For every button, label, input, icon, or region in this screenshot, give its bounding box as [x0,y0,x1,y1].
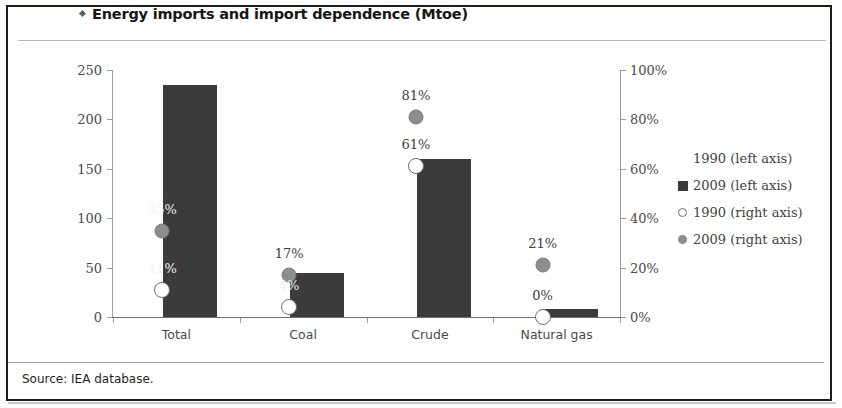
legend-square-icon-glyph [678,181,688,191]
right-axis-tick-label: 60% [630,161,659,176]
right-axis-tick [621,119,626,120]
legend-blank-icon-glyph [678,154,688,164]
data-label-1990-natural-gas: 0% [532,288,553,303]
right-axis-tick [621,218,626,219]
left-axis-tick-label: 0 [42,310,102,325]
chart-legend: 1990 (left axis)2009 (left axis)1990 (ri… [676,145,836,253]
data-label-2009-coal: 17% [275,246,304,261]
legend-item-0[interactable]: 1990 (left axis) [676,145,836,172]
marker-2009-natural-gas [535,258,550,273]
figure-page: Energy imports and import dependence (Mt… [0,0,842,408]
left-axis-tick-label: 200 [42,112,102,127]
marker-1990-crude [408,158,424,174]
marker-1990-natural-gas [535,309,551,325]
right-axis-tick-label: 20% [630,260,659,275]
legend-filled-circle-icon [676,233,689,246]
right-axis-tick [621,268,626,269]
left-axis-tick [107,119,112,120]
marker-2009-crude [408,109,423,124]
data-label-1990-total: 11% [148,260,177,275]
right-axis-tick [621,317,626,318]
right-axis-tick-label: 0% [630,310,651,325]
category-label-crude: Crude [411,327,448,342]
legend-item-3[interactable]: 2009 (right axis) [676,226,836,253]
legend-item-1[interactable]: 2009 (left axis) [676,172,836,199]
legend-item-2[interactable]: 1990 (right axis) [676,199,836,226]
bar-natural-gas [544,309,598,317]
left-axis-tick [107,317,112,318]
left-axis-tick-label: 150 [42,161,102,176]
data-label-1990-coal: 4% [279,278,300,293]
category-label-natural-gas: Natural gas [521,327,593,342]
source-note: Source: IEA database. [22,372,154,386]
marker-2009-total [155,223,170,238]
category-axis-tick [493,318,494,323]
data-label-2009-crude: 81% [401,87,430,102]
left-axis-line [112,70,113,318]
left-axis-tick-label: 50 [42,260,102,275]
data-label-1990-crude: 61% [401,137,430,152]
right-axis-tick [621,169,626,170]
category-label-total: Total [162,327,191,342]
data-label-2009-natural-gas: 21% [528,236,557,251]
category-axis-tick [113,318,114,323]
legend-open-circle-icon [676,206,689,219]
left-axis-tick-label: 250 [42,63,102,78]
left-axis-tick-label: 100 [42,211,102,226]
category-axis-tick [367,318,368,323]
left-axis-tick [107,70,112,71]
legend-square-icon [676,179,689,192]
legend-open-circle-icon-glyph [678,208,687,217]
category-axis-tick [240,318,241,323]
category-label-coal: Coal [289,327,317,342]
left-axis-tick [107,218,112,219]
marker-1990-total [154,282,170,298]
data-label-2009-total: 35% [148,201,177,216]
marker-1990-coal [281,299,297,315]
right-axis-line [620,70,621,318]
left-axis-tick [107,268,112,269]
legend-item-label: 1990 (left axis) [693,151,792,166]
right-axis-tick-label: 40% [630,211,659,226]
legend-blank-icon [676,152,689,165]
legend-filled-circle-icon-glyph [678,235,687,244]
legend-item-label: 1990 (right axis) [693,205,803,220]
category-axis-tick [620,318,621,323]
right-axis-tick [621,70,626,71]
footer-divider [8,362,824,363]
right-axis-tick-label: 80% [630,112,659,127]
left-axis-tick [107,169,112,170]
legend-item-label: 2009 (right axis) [693,232,803,247]
right-axis-tick-label: 100% [630,63,667,78]
legend-item-label: 2009 (left axis) [693,178,792,193]
bar-crude [417,159,471,317]
